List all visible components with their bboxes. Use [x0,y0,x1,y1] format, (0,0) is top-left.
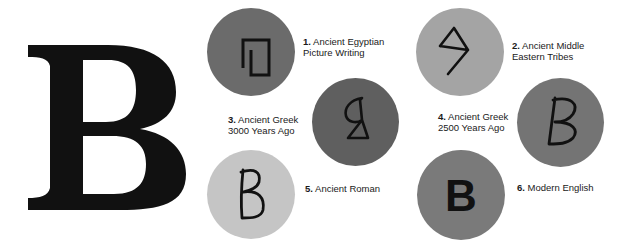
stage-title-line1: Ancient Greek [448,111,508,122]
disc-stage-2 [416,8,504,96]
svg-text:B: B [445,171,477,220]
stage-title-line2: Eastern Tribes [512,51,573,62]
stage-number: 2. [512,40,520,51]
label-stage-1: 1. Ancient Egyptian Picture Writing [303,37,384,58]
label-stage-5: 5. Ancient Roman [305,184,380,195]
disc-stage-3 [312,78,399,166]
label-stage-6: 6. Modern English [517,183,594,194]
big-serif-letter-b [28,40,188,210]
egyptian-house-glyph-icon [207,8,295,96]
roman-b-glyph-icon [207,150,295,239]
label-stage-3: 3. Ancient Greek 3000 Years Ago [228,115,298,136]
stage-title-line2: 2500 Years Ago [438,122,505,133]
stage-title-line1: Ancient Greek [238,114,298,125]
label-stage-4: 4. Ancient Greek 2500 Years Ago [438,112,508,133]
stage-number: 1. [303,36,311,47]
modern-b-glyph-icon: B [417,150,505,240]
stage-title-line2: 3000 Years Ago [228,125,295,136]
stage-number: 6. [517,182,525,193]
disc-stage-4 [517,78,604,167]
stage-title-line1: Ancient Middle [522,40,584,51]
stage-number: 4. [438,111,446,122]
stage-number: 5. [305,183,313,194]
stage-title-line2: Picture Writing [303,47,365,58]
disc-stage-1 [207,8,295,96]
greek-3000-glyph-icon [312,78,399,166]
label-stage-2: 2. Ancient Middle Eastern Tribes [512,41,584,62]
stage-title-line1: Ancient Egyptian [313,36,384,47]
stage-title-line1: Ancient Roman [315,183,380,194]
middle-eastern-glyph-icon [416,8,504,96]
stage-title-line1: Modern English [528,182,594,193]
disc-stage-5 [207,150,295,239]
stage-number: 3. [228,114,236,125]
disc-stage-6: B [417,150,505,240]
greek-2500-glyph-icon [517,78,604,167]
